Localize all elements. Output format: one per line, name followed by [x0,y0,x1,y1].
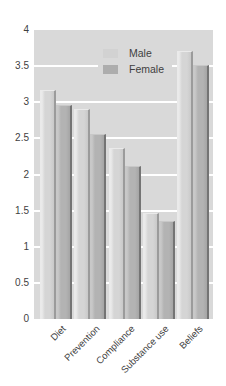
y-tick-label: 3.5 [0,60,29,72]
y-tick-label: 0 [0,313,29,325]
bar-group-compliance [109,148,141,319]
bar-group-prevention [74,109,106,320]
male-bar [143,213,159,319]
y-tick-label: 3 [0,96,29,108]
y-tick-label: 1.5 [0,205,29,217]
legend-item-female: Female [103,63,164,75]
x-tick-label-beliefs: Beliefs [177,323,205,351]
y-tick-label: 1 [0,241,29,253]
y-tick-label: 2 [0,169,29,181]
legend-label: Male [129,47,152,59]
bar-group-diet [40,90,72,319]
y-tick-label: 0.5 [0,277,29,289]
female-bar [125,166,141,319]
y-tick-label: 4 [0,24,29,36]
legend-label: Female [129,63,164,75]
bar-group-substance-use [143,213,175,319]
male-bar [177,51,193,319]
bar-chart-figure: MaleFemale 00.511.522.533.54 DietPrevent… [0,0,226,386]
x-tick-label-diet: Diet [48,323,68,343]
plot-area: MaleFemale [34,30,213,319]
female-bar [90,134,106,319]
female-bar [56,105,72,319]
bar-group-beliefs [177,51,209,319]
y-tick-label: 2.5 [0,132,29,144]
female-bar [159,221,175,320]
male-bar [74,109,90,320]
male-bar [40,90,56,319]
female-bar [193,65,209,319]
legend-item-male: Male [103,47,164,59]
legend: MaleFemale [98,41,172,81]
legend-swatch-male [103,49,118,58]
legend-swatch-female [103,65,118,74]
male-bar [109,148,125,319]
